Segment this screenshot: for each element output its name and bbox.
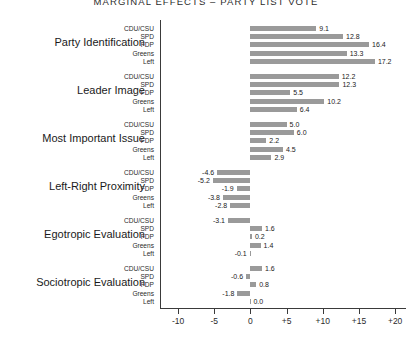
- bar-value-label: 17.2: [378, 58, 392, 65]
- category-label: Left: [100, 202, 154, 210]
- x-tick-mark: [214, 309, 215, 314]
- category-label: CDU/CSU: [100, 121, 154, 129]
- bar: [250, 234, 251, 239]
- bar: [250, 82, 339, 87]
- category-label: SPD: [100, 81, 154, 89]
- bar-value-label: 4.5: [286, 146, 296, 153]
- category-label: Left: [100, 58, 154, 66]
- bar-value-label: 1.4: [264, 242, 274, 249]
- x-tick-mark: [323, 309, 324, 314]
- bar-value-label: 0.2: [255, 233, 265, 240]
- bar-value-label: 6.0: [297, 129, 307, 136]
- category-label: Greens: [100, 98, 154, 106]
- bar: [237, 186, 251, 191]
- bar-value-label: 10.2: [327, 98, 341, 105]
- bar-value-label: 6.4: [300, 106, 310, 113]
- x-tick-label: +5: [272, 316, 302, 326]
- bar-value-label: -2.8: [215, 202, 227, 209]
- bar: [230, 203, 250, 208]
- x-tick-label: -5: [199, 316, 229, 326]
- bar: [250, 130, 293, 135]
- bar: [228, 218, 250, 223]
- bar: [250, 59, 374, 64]
- bar: [250, 99, 324, 104]
- marginal-effects-chart: MARGINAL EFFECTS – PARTY LIST VOTE -10-5…: [0, 0, 412, 345]
- bar-value-label: -0.6: [231, 273, 243, 280]
- category-label: SPD: [100, 129, 154, 137]
- y-axis-line: [160, 20, 161, 308]
- bar-value-label: 0.8: [259, 281, 269, 288]
- bar-value-label: 5.0: [290, 121, 300, 128]
- category-label: Left: [100, 298, 154, 306]
- bar-value-label: 5.5: [293, 89, 303, 96]
- category-label: Greens: [100, 50, 154, 58]
- bar-value-label: -3.8: [208, 194, 220, 201]
- bar-value-label: 16.4: [372, 41, 386, 48]
- plot-area: -10-50+5+10+15+20 9.112.816.413.317.212.…: [160, 20, 406, 308]
- x-tick-label: 0: [235, 316, 265, 326]
- bar-value-label: 2.9: [274, 154, 284, 161]
- bar: [250, 243, 260, 248]
- bar: [250, 34, 343, 39]
- x-tick-label: +15: [344, 316, 374, 326]
- category-label: SPD: [100, 177, 154, 185]
- bar-value-label: 0.0: [253, 298, 263, 305]
- bar-value-label: -1.8: [222, 290, 234, 297]
- bar: [250, 251, 251, 256]
- bar: [250, 226, 262, 231]
- bar: [250, 26, 316, 31]
- bar-value-label: 12.2: [342, 73, 356, 80]
- category-label: FDP: [100, 89, 154, 97]
- bar-value-label: -4.6: [202, 169, 214, 176]
- category-label: SPD: [100, 273, 154, 281]
- category-label: Left: [100, 154, 154, 162]
- bar: [250, 138, 266, 143]
- category-label: CDU/CSU: [100, 217, 154, 225]
- category-label: Greens: [100, 242, 154, 250]
- category-label: Greens: [100, 290, 154, 298]
- bar: [250, 282, 256, 287]
- bar: [223, 195, 250, 200]
- x-tick-mark: [287, 309, 288, 314]
- bar-value-label: 9.1: [319, 25, 329, 32]
- category-label: SPD: [100, 225, 154, 233]
- category-label: FDP: [100, 137, 154, 145]
- category-label: Greens: [100, 146, 154, 154]
- bar-value-label: 13.3: [350, 50, 364, 57]
- bar: [246, 274, 250, 279]
- category-label: CDU/CSU: [100, 265, 154, 273]
- bar: [250, 107, 296, 112]
- bar-value-label: 1.6: [265, 265, 275, 272]
- x-axis-line: [160, 308, 406, 309]
- x-tick-mark: [359, 309, 360, 314]
- bar-value-label: -5.2: [198, 177, 210, 184]
- category-label: FDP: [100, 41, 154, 49]
- category-label: Left: [100, 250, 154, 258]
- bar: [250, 299, 251, 304]
- category-label: FDP: [100, 281, 154, 289]
- bar: [250, 42, 369, 47]
- bar: [237, 291, 250, 296]
- category-label: FDP: [100, 233, 154, 241]
- bar: [250, 266, 262, 271]
- x-tick-label: +20: [380, 316, 410, 326]
- category-label: Left: [100, 106, 154, 114]
- bar-value-label: -1.9: [222, 185, 234, 192]
- category-label: FDP: [100, 185, 154, 193]
- chart-title: MARGINAL EFFECTS – PARTY LIST VOTE: [0, 0, 412, 7]
- category-label: CDU/CSU: [100, 169, 154, 177]
- x-tick-label: +10: [308, 316, 338, 326]
- bar: [250, 51, 346, 56]
- x-tick-mark: [395, 309, 396, 314]
- bar-value-label: 1.6: [265, 225, 275, 232]
- bar: [250, 122, 286, 127]
- category-label: CDU/CSU: [100, 73, 154, 81]
- bar-value-label: -0.1: [235, 250, 247, 257]
- bar-value-label: -3.1: [213, 217, 225, 224]
- x-tick-mark: [178, 309, 179, 314]
- x-tick-label: -10: [163, 316, 193, 326]
- category-label: CDU/CSU: [100, 25, 154, 33]
- bar: [250, 147, 283, 152]
- bar-value-label: 2.2: [269, 137, 279, 144]
- bar: [250, 90, 290, 95]
